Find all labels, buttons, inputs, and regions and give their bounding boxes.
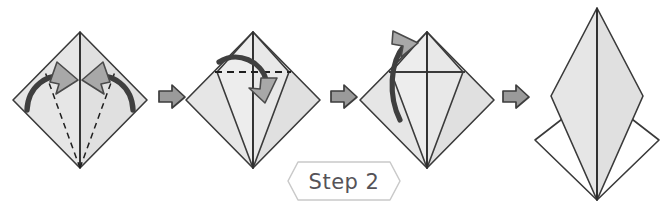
separator-3-progress-arrow — [503, 85, 529, 108]
diagram-canvas: Step 2 — [0, 0, 666, 210]
figure-4-completed-petal-fold — [535, 8, 659, 200]
figure-3-kite-with-unfold-arrow — [360, 31, 494, 168]
step-label-banner: Step 2 — [288, 162, 400, 200]
origami-instruction-diagram: Step 2 — [0, 0, 666, 210]
step-banner-text: Step 2 — [309, 170, 380, 194]
figure-2-kite-with-top-flap-dashed — [186, 32, 320, 168]
separator-1-progress-arrow — [159, 85, 185, 108]
figure-1-right-panel — [80, 32, 147, 168]
separator-2-progress-arrow — [331, 85, 357, 108]
figure-1-left-panel — [13, 32, 80, 168]
figure-1-diamond-with-inward-fold-arrows — [13, 32, 147, 168]
